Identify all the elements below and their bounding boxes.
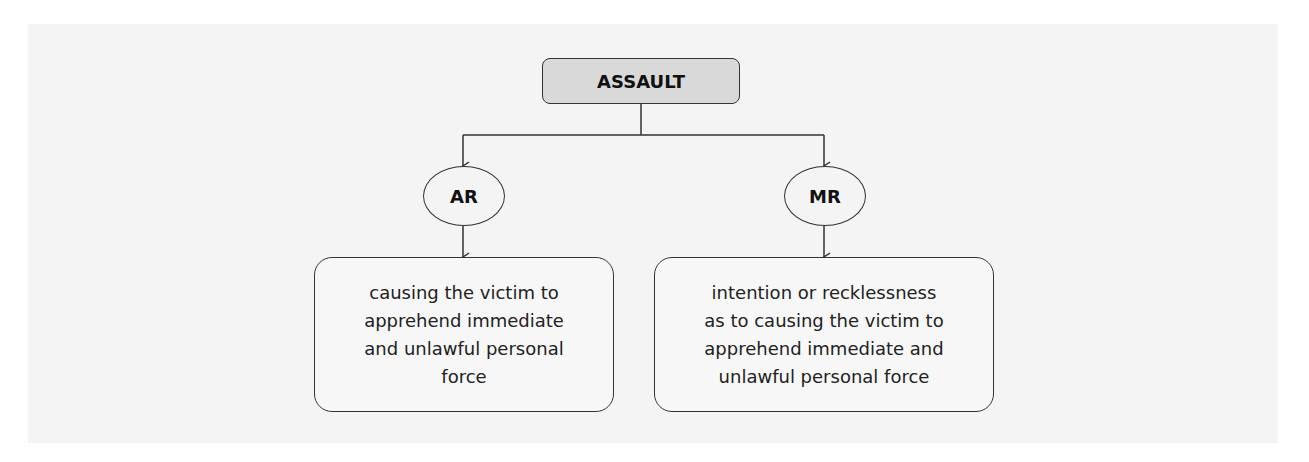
ar-description-box: causing the victim to apprehend immediat… — [314, 257, 614, 412]
node-ar: AR — [423, 166, 505, 226]
node-mr: MR — [784, 166, 866, 226]
node-ar-label: AR — [450, 186, 478, 207]
ar-description: causing the victim to apprehend immediat… — [364, 279, 564, 391]
mr-description: intention or recklessness as to causing … — [704, 279, 943, 391]
root-label: ASSAULT — [597, 71, 685, 92]
node-mr-label: MR — [809, 186, 841, 207]
mr-description-box: intention or recklessness as to causing … — [654, 257, 994, 412]
root-node-assault: ASSAULT — [542, 58, 740, 104]
